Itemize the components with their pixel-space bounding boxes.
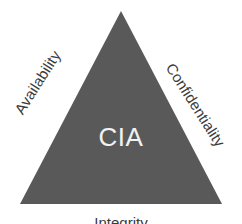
- cia-triad-diagram: CIA Availability Confidentiality Integri…: [0, 0, 242, 224]
- edge-label-integrity: Integrity: [0, 215, 242, 224]
